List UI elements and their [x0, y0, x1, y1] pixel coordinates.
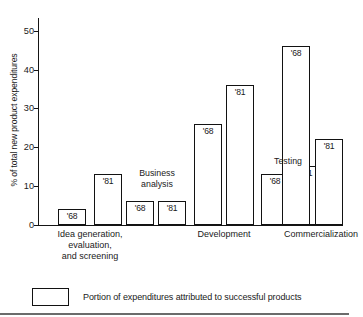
annotation-business-analysis: Business analysis	[122, 168, 192, 189]
bar-idea-81: '81	[94, 174, 122, 225]
legend-label: Portion of expenditures attributed to su…	[83, 292, 301, 302]
bar-development-68: '68	[194, 124, 222, 225]
bar-value-label: '68	[283, 49, 309, 58]
bar-business-68: '68	[126, 201, 154, 225]
bar-value-label: '68	[195, 127, 221, 136]
y-tick-50	[34, 31, 38, 32]
bar-business-81: '81	[158, 201, 186, 225]
plot-area: 0 10 20 30 40 50 '68 '81 '68 '81 '68 '81	[38, 18, 343, 225]
bar-value-label: '81	[227, 88, 253, 97]
bar-value-label: '81	[316, 142, 342, 151]
annotation-testing: Testing	[253, 156, 323, 167]
bar-value-label: '81	[95, 177, 121, 186]
bar-commercialization-81: '81	[315, 139, 343, 225]
x-category-idea-generation: Idea generation, evaluation, and screeni…	[20, 229, 160, 262]
bottom-divider	[0, 313, 349, 315]
bar-value-label: '81	[159, 204, 185, 213]
legend: Portion of expenditures attributed to su…	[32, 288, 301, 306]
y-tick-label-50: 50	[12, 27, 34, 36]
bar-commercialization-68: '68	[282, 46, 310, 225]
y-tick-30	[34, 108, 38, 109]
bar-value-label: '68	[127, 204, 153, 213]
bar-development-81: '81	[226, 85, 254, 225]
x-axis-line	[38, 225, 343, 226]
bar-value-label: '68	[59, 212, 85, 221]
bar-idea-68: '68	[58, 209, 86, 225]
y-tick-label-10: 10	[12, 182, 34, 191]
y-tick-20	[34, 147, 38, 148]
y-tick-10	[34, 186, 38, 187]
y-tick-label-40: 40	[12, 66, 34, 75]
y-tick-40	[34, 70, 38, 71]
legend-swatch-outline	[32, 288, 69, 306]
y-axis-line	[38, 18, 39, 226]
x-category-commercialization: Commercialization	[256, 229, 363, 240]
y-tick-label-30: 30	[12, 104, 34, 113]
y-tick-label-20: 20	[12, 143, 34, 152]
y-tick-0	[34, 225, 38, 226]
